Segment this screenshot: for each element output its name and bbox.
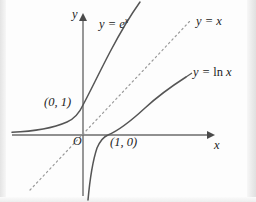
curve-label-identity: y = x bbox=[196, 15, 222, 28]
curve-label-logarithm: y = ln x bbox=[193, 66, 232, 79]
y-axis-label: y bbox=[72, 8, 78, 21]
point-label-0-1: (0, 1) bbox=[44, 96, 71, 109]
curve-label-exponential: y = ex bbox=[99, 18, 128, 31]
x-axis-label: x bbox=[214, 139, 220, 152]
point-label-1-0: (1, 0) bbox=[110, 136, 137, 149]
origin-label: O bbox=[73, 135, 82, 147]
y-axis-arrowhead bbox=[79, 13, 87, 21]
logarithm-label-leader bbox=[186, 73, 192, 77]
math-figure: y = ex y = x y = ln x (0, 1) (1, 0) O x … bbox=[0, 0, 256, 202]
